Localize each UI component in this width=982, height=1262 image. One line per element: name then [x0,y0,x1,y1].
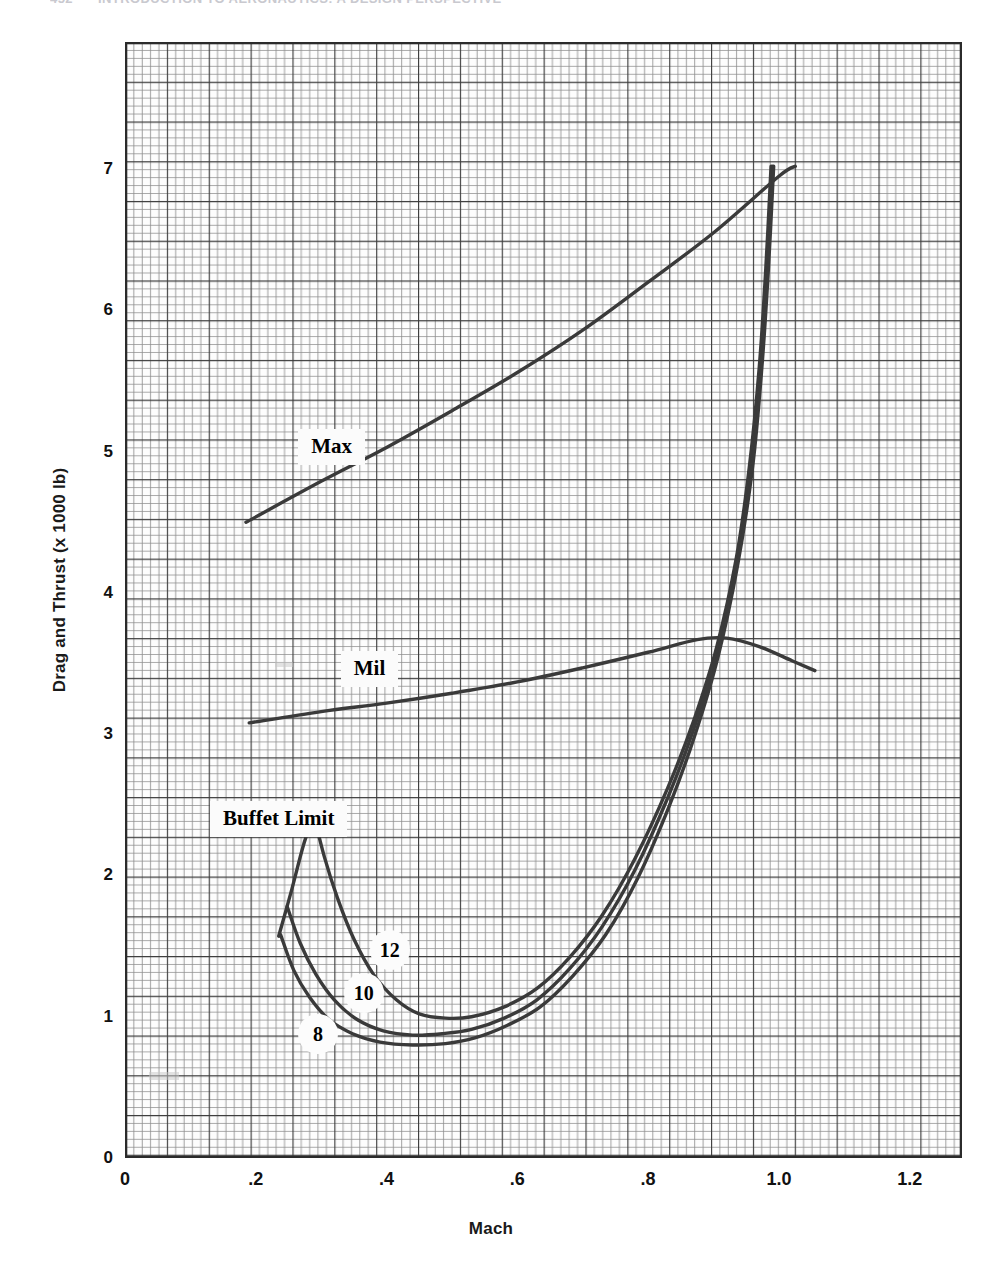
x-tick-label: .8 [618,1170,678,1188]
y-tick-label: 1 [67,1008,113,1025]
curve-label-max: Max [298,429,365,465]
curve-label-buffet-limit: Buffet Limit [210,801,347,837]
y-tick-label: 2 [67,866,113,883]
scan-speck [275,662,293,667]
figure-page: 452INTRODUCTION TO AERONAUTICS: A DESIGN… [0,0,982,1262]
running-header-title: INTRODUCTION TO AERONAUTICS: A DESIGN PE… [98,0,502,6]
running-header-page: 452 [50,0,98,6]
x-tick-label: 1.0 [749,1170,809,1188]
plot-area [125,42,962,1158]
y-tick-label: 5 [67,443,113,460]
x-tick-label: .2 [226,1170,286,1188]
x-axis-title: Mach [0,1219,982,1239]
y-tick-label: 0 [67,1149,113,1166]
y-tick-label: 3 [67,725,113,742]
curve-badge-8: 8 [298,1014,338,1054]
x-tick-label: .6 [487,1170,547,1188]
running-header: 452INTRODUCTION TO AERONAUTICS: A DESIGN… [50,0,850,7]
grid-lines [125,42,962,1158]
x-tick-label: .4 [357,1170,417,1188]
y-tick-label: 6 [67,301,113,318]
y-tick-label: 4 [67,584,113,601]
chart-canvas [125,42,962,1158]
curve-badge-10: 10 [344,973,384,1013]
y-axis-title: Drag and Thrust (x 1000 lb) [50,380,70,780]
x-tick-label: 0 [95,1170,155,1188]
curve-badge-12: 12 [370,930,410,970]
x-tick-label: 1.2 [880,1170,940,1188]
y-tick-label: 7 [67,160,113,177]
scan-speck [149,1072,179,1080]
curve-label-mil: Mil [341,651,399,687]
